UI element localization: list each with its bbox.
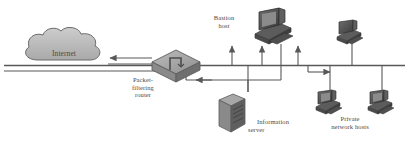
computer-icon — [316, 90, 342, 114]
computer-icon — [337, 20, 363, 44]
link-backbone-to-private-hosts — [308, 44, 382, 90]
network-diagram-canvas: Internet Packet- filtering router Bastio… — [0, 0, 409, 148]
link-router-to-internet — [108, 58, 152, 64]
link-backbone-to-bastion — [232, 44, 298, 80]
computer-icon — [255, 8, 293, 44]
computer-icon — [368, 90, 394, 114]
internet-label: Internet — [38, 50, 90, 58]
backbone-bus — [4, 66, 405, 72]
